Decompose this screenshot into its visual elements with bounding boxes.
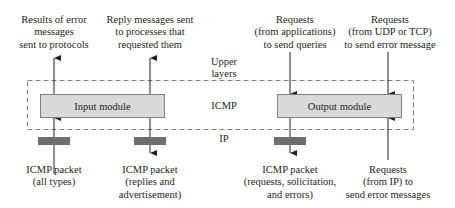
output-module: Output module: [277, 94, 402, 118]
label-icmp-layer: ICMP: [204, 100, 244, 112]
label-line: advertisement): [110, 189, 190, 201]
label-line: to processes that: [98, 26, 202, 38]
label-line: (all types): [14, 176, 94, 188]
label-line: messages: [7, 26, 101, 38]
label-line: Results of error: [7, 14, 101, 26]
label-line: ICMP packet: [110, 164, 190, 176]
label-out-requests: ICMP packet (requests, solicitation, and…: [238, 164, 342, 201]
label-in-packet: ICMP packet (all types): [14, 164, 94, 189]
label-line: send error messages: [342, 189, 434, 201]
label-line: sent to protocols: [7, 39, 101, 51]
label-udp-tcp-requests: Requests (from UDP or TCP) to send error…: [337, 14, 443, 51]
label-line: Reply messages sent: [98, 14, 202, 26]
label-app-requests: Requests (from applications) to send que…: [245, 14, 345, 51]
label-line: (from UDP or TCP): [337, 26, 443, 38]
label-line: and errors): [238, 189, 342, 201]
input-module: Input module: [40, 94, 165, 118]
label-out-replies: ICMP packet (replies and advertisement): [110, 164, 190, 201]
label-ip-requests: Requests (from IP) to send error message…: [342, 164, 434, 201]
label-line: to send error message: [337, 39, 443, 51]
label-line: Requests: [342, 164, 434, 176]
label-line: requested them: [98, 39, 202, 51]
label-ip-layer: IP: [204, 133, 244, 145]
label-results: Results of error messages sent to protoc…: [7, 14, 101, 51]
label-line: Requests: [337, 14, 443, 26]
label-line: to send queries: [245, 39, 345, 51]
ip-bar-out-replies: [134, 137, 166, 145]
label-line: (requests, solicitation,: [238, 176, 342, 188]
label-line: layers: [204, 68, 244, 80]
label-line: (from applications): [245, 26, 345, 38]
label-line: ICMP packet: [238, 164, 342, 176]
label-line: (from IP) to: [342, 176, 434, 188]
ip-bar-out-requests: [274, 137, 306, 145]
label-upper-layers: Upper layers: [204, 56, 244, 81]
input-module-label: Input module: [74, 101, 130, 112]
label-line: Upper: [204, 56, 244, 68]
output-module-label: Output module: [308, 101, 371, 112]
label-line: (replies and: [110, 176, 190, 188]
label-line: ICMP packet: [14, 164, 94, 176]
label-line: Requests: [245, 14, 345, 26]
ip-bar-in: [38, 137, 70, 145]
label-replies: Reply messages sent to processes that re…: [98, 14, 202, 51]
